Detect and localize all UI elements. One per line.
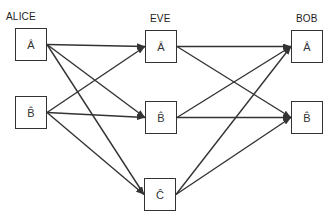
arrow-alice-a-to-eve-c bbox=[47, 45, 144, 195]
node-eve-a: Â bbox=[145, 30, 177, 63]
node-label: B̂ bbox=[27, 107, 34, 119]
node-eve-b: B̂ bbox=[145, 101, 177, 134]
arrow-alice-b-to-eve-a bbox=[47, 47, 145, 113]
node-alice-b: B̂ bbox=[15, 96, 47, 129]
column-label-bob: BOB bbox=[296, 13, 318, 24]
node-label: Â bbox=[27, 39, 34, 51]
arrow-eve-c-to-bob-a bbox=[176, 47, 291, 195]
node-bob-b: B̂ bbox=[291, 101, 323, 134]
arrow-alice-b-to-eve-b bbox=[47, 113, 145, 118]
node-eve-c: Ĉ bbox=[144, 178, 176, 211]
node-label: B̂ bbox=[157, 112, 164, 124]
node-label: Â bbox=[303, 41, 310, 53]
node-alice-a: Â bbox=[15, 28, 47, 61]
arrow-alice-a-to-eve-a bbox=[47, 45, 145, 47]
arrow-alice-b-to-eve-c bbox=[47, 113, 144, 195]
column-label-eve: EVE bbox=[150, 13, 171, 24]
node-label: B̂ bbox=[303, 112, 310, 124]
arrow-eve-c-to-bob-b bbox=[176, 118, 291, 195]
column-label-alice: ALICE bbox=[6, 11, 36, 22]
node-bob-a: Â bbox=[291, 30, 323, 63]
node-label: Â bbox=[157, 41, 164, 53]
node-label: Ĉ bbox=[156, 189, 164, 201]
arrow-alice-a-to-eve-b bbox=[47, 45, 145, 118]
